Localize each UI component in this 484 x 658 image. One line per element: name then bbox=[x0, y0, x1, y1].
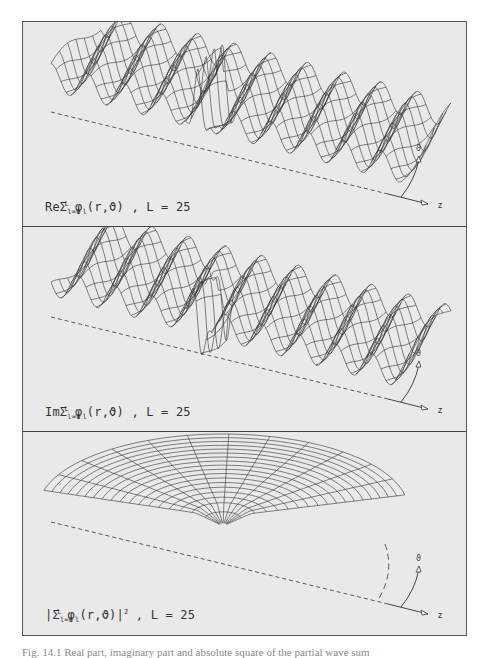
panel-imaginary-part: zϑ ImΣl=0Lφl(r,ϑ) , L = 25 bbox=[23, 227, 466, 432]
z-axis-arrowhead-icon bbox=[421, 405, 428, 410]
theta-axis-label: ϑ bbox=[416, 349, 421, 358]
theta-axis-label: ϑ bbox=[416, 144, 421, 153]
figure-caption: Fig. 14.1 Real part, imaginary part and … bbox=[22, 646, 370, 658]
panel-label-real: ReΣl=0Lφl(r,ϑ) , L = 25 bbox=[45, 200, 191, 216]
z-axis-arrowhead-icon bbox=[421, 610, 428, 615]
sum-upper-limit: L bbox=[65, 200, 69, 208]
imaginary-part-wireframe-plot: zϑ bbox=[23, 227, 466, 432]
real-part-wireframe-plot: zϑ bbox=[23, 22, 466, 227]
sum-limits: l=0 bbox=[67, 208, 80, 216]
param-L: , L = 25 bbox=[124, 405, 191, 419]
param-L: , L = 25 bbox=[128, 608, 195, 622]
panel-real-part: zϑ ReΣl=0Lφl(r,ϑ) , L = 25 bbox=[23, 22, 466, 227]
panel-absolute-square: zϑ |Σl=0Lφl(r,ϑ)|2 , L = 25 bbox=[23, 432, 466, 635]
z-axis-label: z bbox=[438, 406, 442, 415]
panel-label-imaginary: ImΣl=0Lφl(r,ϑ) , L = 25 bbox=[45, 405, 191, 421]
dashed-arc bbox=[378, 544, 389, 600]
z-axis-arrowhead-icon bbox=[421, 200, 428, 205]
param-L: , L = 25 bbox=[124, 200, 191, 214]
wireframe-mesh bbox=[51, 227, 451, 385]
wireframe-bowl-mesh bbox=[44, 434, 405, 524]
label-prefix: Im bbox=[45, 405, 60, 419]
function-args: (r,ϑ) bbox=[87, 200, 124, 214]
z-axis-label: z bbox=[438, 201, 442, 210]
theta-axis-label: ϑ bbox=[416, 554, 421, 563]
absolute-square-wireframe-plot: zϑ bbox=[23, 432, 466, 635]
sum-upper-limit: L bbox=[65, 405, 69, 413]
wireframe-mesh bbox=[51, 22, 451, 182]
z-axis-label: z bbox=[438, 611, 442, 620]
panel-label-absolute-square: |Σl=0Lφl(r,ϑ)|2 , L = 25 bbox=[45, 608, 195, 624]
function-symbol: φ bbox=[68, 608, 75, 622]
figure-frame: zϑ ReΣl=0Lφl(r,ϑ) , L = 25 zϑ ImΣl=0Lφl(… bbox=[22, 21, 467, 636]
label-prefix: Re bbox=[45, 200, 60, 214]
function-args: (r,ϑ) bbox=[87, 405, 124, 419]
theta-arc bbox=[401, 569, 419, 607]
dashed-axis-line bbox=[51, 522, 388, 604]
sum-upper-limit: L bbox=[57, 608, 61, 616]
theta-arrowhead-icon bbox=[416, 566, 421, 572]
function-args: (r,ϑ)| bbox=[79, 608, 124, 622]
theta-arrowhead-icon bbox=[416, 361, 421, 367]
theta-arc bbox=[401, 364, 419, 402]
